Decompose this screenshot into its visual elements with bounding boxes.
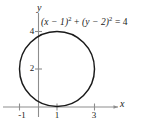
x-tick-label-3: 3 — [88, 111, 100, 120]
x-axis-label: x — [120, 99, 124, 109]
equation-x-group: (x − 1) — [41, 17, 68, 27]
circle-graph-figure: (x − 1)2 + (y − 2)2 = 4 y x -1 1 3 2 4 — [0, 0, 142, 129]
y-axis-label: y — [37, 3, 41, 13]
x-tick-label-minus1: -1 — [15, 111, 29, 120]
equation-plus: + — [72, 17, 82, 27]
x-axis-arrowhead — [114, 105, 119, 109]
x-tick-label-1: 1 — [51, 111, 63, 120]
y-tick-label-4: 4 — [28, 27, 36, 36]
equation-annotation: (x − 1)2 + (y − 2)2 = 4 — [41, 17, 128, 27]
equation-equals-value: = 4 — [112, 17, 127, 27]
equation-y-group: (y − 2) — [82, 17, 109, 27]
y-tick-label-2: 2 — [28, 64, 36, 73]
